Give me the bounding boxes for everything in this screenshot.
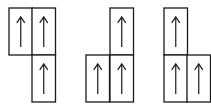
tromino-cell <box>187 55 211 102</box>
tromino-2 <box>86 8 134 102</box>
tromino-1 <box>9 8 56 102</box>
tromino-cell <box>164 55 188 102</box>
tromino-cell <box>32 55 56 102</box>
tromino-cell <box>110 55 134 102</box>
tromino-cell <box>164 8 188 55</box>
tromino-3 <box>164 8 211 102</box>
tromino-cell <box>9 8 33 55</box>
tromino-cell <box>32 8 56 55</box>
tromino-diagram <box>0 0 211 106</box>
tromino-cell <box>110 8 134 55</box>
tromino-cell <box>86 55 110 102</box>
